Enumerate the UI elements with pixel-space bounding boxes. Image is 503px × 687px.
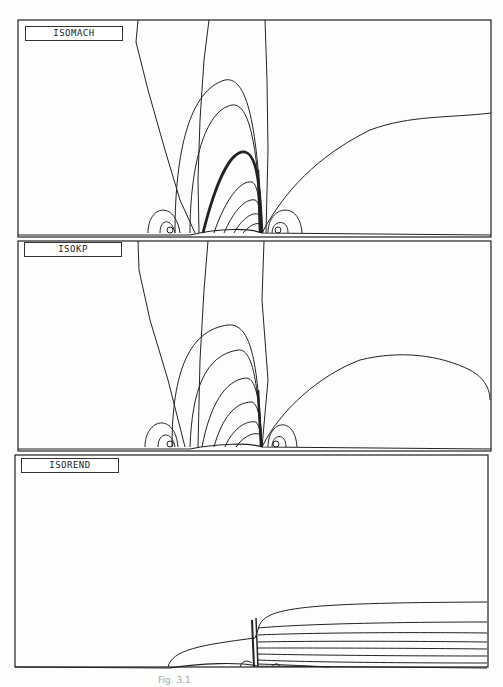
contour-shock: [203, 152, 262, 233]
contour-line: [265, 20, 268, 233]
contour-line: [190, 350, 262, 447]
contour-line: [224, 200, 262, 233]
contour-line: [175, 80, 262, 233]
panel-label-isorend: ISOREND: [21, 458, 119, 473]
contour-figure: [0, 0, 503, 687]
figure-caption: Fig. 3.1: [158, 675, 191, 685]
contour-line: [258, 622, 487, 628]
contour-line: [258, 660, 487, 663]
contour-line: [258, 648, 487, 649]
panel-frame: [18, 20, 491, 237]
contour-line: [167, 227, 173, 233]
panel-label-isokp: ISOKP: [24, 242, 122, 257]
contour-line: [262, 355, 490, 447]
contour-line: [198, 20, 209, 233]
contour-line: [258, 633, 487, 635]
panel-frame: [18, 241, 491, 451]
contour-line: [214, 182, 262, 233]
panel-label-isomach: ISOMACH: [25, 26, 123, 41]
contour-line: [258, 641, 487, 642]
panel-isorend: [15, 455, 488, 668]
panel-isokp: [18, 241, 491, 451]
contour-line: [273, 441, 279, 447]
contour-line: [168, 602, 487, 667]
airfoil-wall: [18, 444, 491, 449]
contour-line: [138, 241, 185, 447]
contour-line: [256, 618, 258, 667]
panel-frame: [15, 455, 488, 667]
contour-line: [258, 654, 487, 656]
contour-line: [198, 241, 208, 447]
contour-line: [214, 402, 262, 447]
airfoil-wall: [18, 229, 491, 235]
panel-isomach: [18, 20, 491, 237]
contour-line: [275, 227, 281, 233]
contour-line: [136, 20, 195, 233]
contour-line: [258, 390, 261, 447]
contour-line: [252, 620, 254, 667]
contour-line: [225, 422, 262, 447]
contour-line: [202, 378, 262, 447]
contour-line: [262, 241, 268, 447]
contour-line: [172, 325, 262, 447]
